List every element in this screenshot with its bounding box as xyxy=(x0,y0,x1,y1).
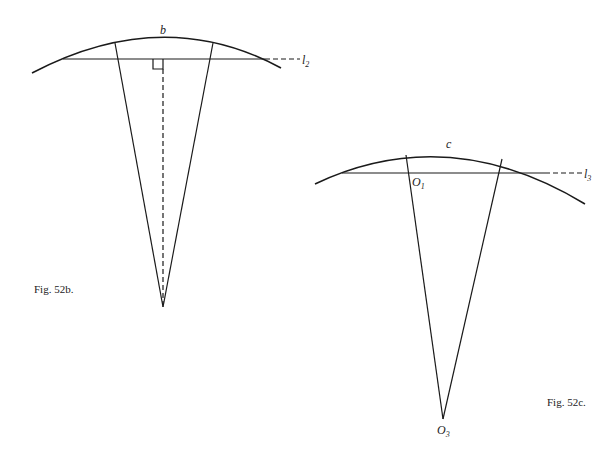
right-radial-line xyxy=(443,159,502,419)
line-label-l3: l3 xyxy=(584,167,591,183)
geometry-diagram: b l2 Fig. 52b. c l3 O1 O3 Fig. 52c. xyxy=(0,0,616,456)
right-radial-line xyxy=(163,43,213,307)
right-angle-marker xyxy=(153,59,163,69)
figure-52c: c l3 O1 O3 Fig. 52c. xyxy=(315,137,591,439)
caption-fig-52b: Fig. 52b. xyxy=(34,283,74,295)
arc-label-c: c xyxy=(446,137,452,151)
line-label-l2: l2 xyxy=(302,53,309,69)
caption-fig-52c: Fig. 52c. xyxy=(547,396,586,408)
figure-52b: b l2 Fig. 52b. xyxy=(32,23,309,307)
left-radial-line xyxy=(406,155,443,419)
left-radial-line xyxy=(115,43,163,307)
arc-c xyxy=(315,157,585,204)
arc-b xyxy=(32,37,281,73)
arc-label-b: b xyxy=(160,23,166,37)
point-label-o1: O1 xyxy=(412,175,425,191)
apex-label-o3: O3 xyxy=(437,423,450,439)
